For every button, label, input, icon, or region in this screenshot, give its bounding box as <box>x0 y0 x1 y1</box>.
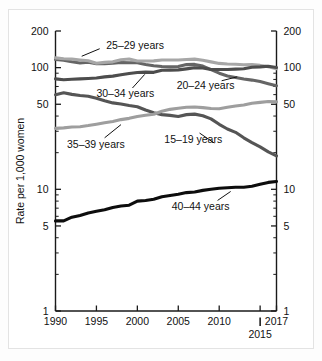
y-tick-label-left: 5 <box>43 220 49 232</box>
y-tick-label-right: 10 <box>284 183 296 195</box>
series-label-leader <box>105 125 121 138</box>
x-tick-label: 1990 <box>44 315 68 327</box>
series-label: 20–24 years <box>177 79 235 91</box>
series-label: 35–39 years <box>67 138 125 150</box>
x-tick-label: 2010 <box>208 315 232 327</box>
y-tick-label-left: 50 <box>37 98 49 110</box>
y-axis-title: Rate per 1,000 women <box>14 118 26 224</box>
y-tick-label-left: 200 <box>31 25 49 37</box>
series-line <box>56 181 277 220</box>
series-label: 15–19 years <box>164 133 222 145</box>
series-label-leader <box>218 191 231 200</box>
axes: 1155101050501001002002001990199520002005… <box>31 25 301 340</box>
y-tick-label-right: 5 <box>284 220 290 232</box>
chart-figure: 1155101050501001002002001990199520002005… <box>0 0 322 361</box>
y-tick-label-left: 10 <box>37 183 49 195</box>
x-tick-label: 2017 <box>265 315 289 327</box>
series-label-leader <box>82 49 100 57</box>
axis-titles: Rate per 1,000 women <box>14 118 26 224</box>
series-label: 30–34 years <box>96 87 154 99</box>
y-tick-label-right: 100 <box>284 61 302 73</box>
y-tick-label-right: 200 <box>284 25 302 37</box>
line-chart: 1155101050501001002002001990199520002005… <box>0 0 322 361</box>
y-tick-label-left: 100 <box>31 61 49 73</box>
x-tick-label-2015: 2015 <box>248 328 272 340</box>
x-tick-label: 1995 <box>85 315 109 327</box>
series-label: 25–29 years <box>106 39 164 51</box>
x-tick-label: 2005 <box>167 315 191 327</box>
x-tick-label: 2000 <box>126 315 150 327</box>
series-label: 40–44 years <box>172 200 230 212</box>
y-tick-label-right: 50 <box>284 98 296 110</box>
